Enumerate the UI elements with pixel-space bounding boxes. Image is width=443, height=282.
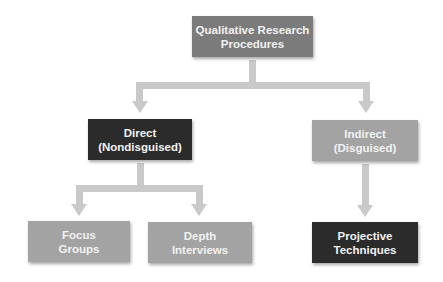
connector-indirect-stem xyxy=(362,164,369,206)
node-depth-interviews: DepthInterviews xyxy=(148,222,252,263)
node-label-line2: Interviews xyxy=(172,244,228,256)
node-label-line1: Direct xyxy=(124,127,157,139)
node-qualitative-research-procedures: Qualitative ResearchProcedures xyxy=(192,16,313,57)
connector-root-right-drop xyxy=(363,82,370,102)
arrow-to-depth-icon xyxy=(191,204,207,216)
arrow-to-focus-icon xyxy=(71,204,87,216)
node-projective-techniques: ProjectiveTechniques xyxy=(312,222,418,263)
node-direct: Direct(Nondisguised) xyxy=(88,119,192,160)
node-label-line2: Groups xyxy=(59,243,100,255)
connector-direct-left-drop xyxy=(76,185,83,205)
diagram-canvas: Qualitative ResearchProcedures Direct(No… xyxy=(0,0,443,282)
node-label-line2: Procedures xyxy=(221,38,284,50)
node-focus-groups: FocusGroups xyxy=(28,221,130,262)
connector-direct-horizontal xyxy=(76,185,203,192)
arrow-to-indirect-icon xyxy=(358,101,374,113)
node-label-line1: Qualitative Research xyxy=(196,24,310,36)
node-label-line2: Techniques xyxy=(333,244,396,256)
connector-direct-right-drop xyxy=(196,185,203,205)
node-label-line1: Indirect xyxy=(344,128,386,140)
node-label-line2: (Disguised) xyxy=(334,142,397,154)
node-label-line1: Focus xyxy=(62,229,96,241)
arrow-to-projective-icon xyxy=(357,205,373,217)
connector-root-horizontal xyxy=(136,82,370,89)
arrow-to-direct-icon xyxy=(132,101,148,113)
connector-root-left-drop xyxy=(136,82,143,102)
node-indirect: Indirect(Disguised) xyxy=(312,120,418,161)
node-label-line2: (Nondisguised) xyxy=(98,141,182,153)
node-label-line1: Depth xyxy=(184,230,217,242)
node-label-line1: Projective xyxy=(338,230,393,242)
